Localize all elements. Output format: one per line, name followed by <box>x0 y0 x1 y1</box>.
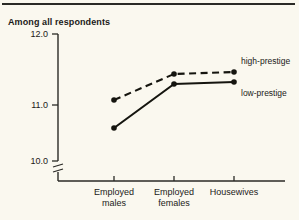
series-label-low-prestige: low-prestige <box>241 88 287 98</box>
figure-container: Among all respondents 12.0 11.0 10.0 <box>0 0 299 220</box>
x-axis-tick-label-employed-females-line2: females <box>134 198 214 209</box>
y-axis-break-lower <box>53 169 63 172</box>
data-point-high-prestige-employed-females <box>171 71 177 77</box>
series-line-low-prestige <box>114 82 234 128</box>
series-label-high-prestige: high-prestige <box>241 56 290 66</box>
data-point-low-prestige-employed-males <box>111 125 117 131</box>
y-axis-tick-label-12: 12.0 <box>18 29 48 39</box>
y-axis-tick-label-10: 10.0 <box>18 156 48 166</box>
y-axis-tick-label-11: 11.0 <box>18 100 48 110</box>
x-axis-tick-label-housewives: Housewives <box>194 187 274 198</box>
data-point-low-prestige-housewives <box>231 79 237 85</box>
y-axis-break-upper <box>53 164 63 167</box>
data-point-high-prestige-employed-males <box>111 97 117 103</box>
x-axis-tick-label-housewives-line1: Housewives <box>194 187 274 198</box>
data-point-high-prestige-housewives <box>231 69 237 75</box>
data-point-low-prestige-employed-females <box>171 81 177 87</box>
